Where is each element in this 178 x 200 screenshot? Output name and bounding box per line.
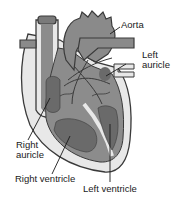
heart-diagram (0, 0, 178, 200)
label-left-ventricle: Left ventricle (83, 184, 137, 194)
label-right-ventricle: Right ventricle (15, 174, 75, 184)
right-auricle-chamber (46, 76, 60, 112)
label-aorta: Aorta (121, 20, 144, 30)
label-right-auricle-2: auricle (16, 150, 44, 160)
pulmonary-veins (114, 64, 134, 77)
label-left-auricle-2: auricle (142, 60, 170, 70)
pulmonary-artery (20, 40, 36, 48)
